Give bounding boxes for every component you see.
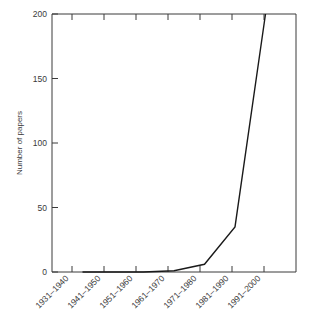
y-tick-label-0: 0 [42, 267, 47, 277]
y-tick-label-50: 50 [38, 203, 48, 213]
y-tick-label-200: 200 [33, 9, 47, 19]
y-tick-label-100: 100 [33, 138, 47, 148]
y-axis-title-text: Number of papers [15, 111, 24, 175]
y-tick-label-150: 150 [33, 74, 47, 84]
y-axis-title: Number of papers [15, 111, 24, 175]
chart-svg: 0 50 100 150 200 Number of papers [0, 0, 313, 332]
chart-figure: 0 50 100 150 200 Number of papers [0, 0, 313, 332]
